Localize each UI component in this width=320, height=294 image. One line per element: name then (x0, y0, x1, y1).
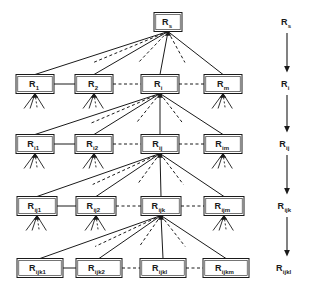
whisker-arrowhead (91, 94, 98, 98)
tree-edge-omitted (91, 94, 160, 124)
tree-node: Rijm (204, 197, 244, 216)
node-label-subscript: ijkl (159, 269, 168, 275)
tree-edge (161, 216, 226, 259)
tree-edge-omitted (168, 32, 185, 63)
tree-diagram: RsR1R2RiRmRi1Ri2RijRimRij1Rij2RijkRijmRi… (0, 0, 320, 294)
axis-arrow-head (284, 250, 290, 257)
tree-node: R1 (16, 75, 54, 94)
tree-node: Ri1 (16, 135, 54, 154)
tree-node: Rijk1 (17, 259, 63, 278)
tree-edge (160, 32, 168, 75)
level-axis: RsRiRijRijkRijkl (276, 17, 292, 274)
tree-node: Rijkl (140, 259, 186, 278)
tree-edge (168, 32, 223, 75)
node-label-subscript: im (222, 145, 229, 151)
tree-node: Rij1 (17, 197, 57, 216)
whisker-arrowhead (34, 216, 41, 220)
whisker-arrowhead (32, 94, 39, 98)
tree-edge-omitted (95, 216, 161, 247)
tree-edge (160, 154, 224, 197)
tree-node: R2 (75, 75, 113, 94)
edges-layer (35, 32, 226, 259)
whisker-arrowhead (93, 216, 100, 220)
tree-node: Rij2 (76, 197, 116, 216)
tree-edge-omitted (137, 154, 160, 185)
node-label-subscript: ijm (221, 207, 230, 213)
tree-node: Rm (204, 75, 242, 94)
whisker-arrowhead (221, 216, 228, 220)
tree-edge-omitted (93, 32, 168, 63)
tree-node: Rijkm (203, 259, 249, 278)
node-label-subscript: ijk2 (95, 269, 106, 275)
tree-edge-omitted (161, 216, 185, 247)
whisker-arrowhead (220, 154, 227, 158)
axis-step-subscript: i (288, 85, 290, 91)
node-label-subscript: i2 (93, 145, 99, 151)
sibling-connectors-layer (54, 84, 204, 268)
node-label-subscript: ijk1 (36, 269, 47, 275)
whisker-arrowhead (32, 154, 39, 158)
tree-node: Rijk2 (76, 259, 122, 278)
axis-arrow-head (284, 188, 290, 195)
tree-edge (94, 32, 168, 75)
axis-arrow-head (284, 126, 290, 133)
axis-step-subscript: ijk (284, 207, 291, 213)
tree-edge (160, 154, 161, 197)
tree-edge-omitted (93, 154, 160, 185)
node-label-subscript: i1 (34, 145, 40, 151)
axis-step-subscript: s (288, 23, 292, 29)
node-label-subscript: m (224, 85, 229, 91)
node-label-subscript: ij2 (93, 207, 100, 213)
whisker-arrowhead (220, 94, 227, 98)
tree-edge (94, 94, 160, 135)
axis-step-subscript: ij (286, 145, 290, 151)
tree-node: Ri (141, 75, 179, 94)
axis-step-subscript: ijkl (283, 269, 292, 275)
node-label-subscript: ij (159, 145, 163, 151)
tree-edge-omitted (160, 94, 183, 124)
node-label-subscript: ijk (158, 207, 165, 213)
tree-node: Rs (154, 13, 182, 32)
tree-node: Rim (204, 135, 242, 154)
axis-arrow-head (284, 66, 290, 73)
tree-edge (161, 216, 163, 259)
tree-node: Ri2 (75, 135, 113, 154)
node-label-subscript: ijkm (222, 269, 234, 275)
figure-canvas: RsR1R2RiRmRi1Ri2RijRimRij1Rij2RijkRijmRi… (0, 0, 320, 294)
tree-edge (160, 94, 223, 135)
tree-edge (96, 154, 160, 197)
tree-node: Rijk (141, 197, 181, 216)
tree-node: Rij (141, 135, 179, 154)
tree-edge-omitted (160, 154, 183, 185)
tree-edge (99, 216, 161, 259)
tree-edge-omitted (136, 94, 160, 124)
whisker-arrowhead (91, 154, 98, 158)
node-label-subscript: ij1 (34, 207, 41, 213)
